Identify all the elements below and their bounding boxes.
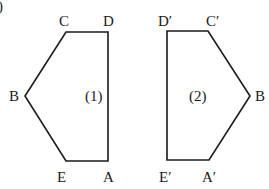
figure-2-label: (2) xyxy=(189,88,207,105)
vertex-label-A-prime: A′ xyxy=(202,169,216,185)
pentagon-2-outline xyxy=(167,31,250,160)
vertex-label-C-prime: C′ xyxy=(206,13,219,29)
vertex-label-E-prime: E′ xyxy=(159,169,171,185)
diagram-canvas: ) (1) A D C B E (2) E′ D′ C′ B A′ xyxy=(0,0,269,189)
vertex-label-D: D xyxy=(103,13,114,29)
vertex-label-E: E xyxy=(57,169,66,185)
vertex-label-B-2: B xyxy=(255,88,265,104)
vertex-label-A: A xyxy=(103,169,114,185)
figure-1: (1) A D C B E xyxy=(9,13,114,185)
vertex-label-B: B xyxy=(9,88,19,104)
figure-1-label: (1) xyxy=(85,88,103,105)
vertex-label-D-prime: D′ xyxy=(158,13,172,29)
vertex-label-C: C xyxy=(59,13,69,29)
figure-2: (2) E′ D′ C′ B A′ xyxy=(158,13,265,185)
corner-mark: ) xyxy=(0,0,3,15)
